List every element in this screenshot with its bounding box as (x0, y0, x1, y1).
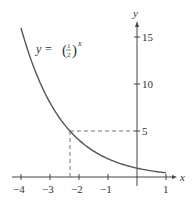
svg-text:2: 2 (67, 51, 71, 59)
svg-text:x: x (77, 39, 82, 48)
function-label: y = ( 1 2 ) x (35, 39, 82, 59)
x-tick-label: −4 (13, 183, 25, 195)
svg-text:1: 1 (67, 42, 71, 50)
svg-text:y =: y = (35, 42, 52, 56)
svg-text:): ) (72, 42, 77, 59)
y-axis-label: y (132, 7, 138, 19)
y-axis-arrow-icon (135, 21, 139, 27)
y-tick-label: 10 (142, 78, 154, 90)
x-tick-label: −1 (100, 183, 112, 195)
y-tick-label: 5 (142, 125, 148, 137)
y-tick-label: 15 (142, 31, 154, 43)
x-tick-label: −3 (42, 183, 54, 195)
x-axis-label: x (179, 171, 185, 183)
exponential-chart: x y −4 −3 −2 −1 1 5 10 15 y = ( 1 2 ) x (0, 0, 193, 204)
x-tick-label: −2 (71, 183, 83, 195)
x-tick-label: 1 (163, 183, 169, 195)
x-axis-arrow-icon (172, 175, 177, 179)
